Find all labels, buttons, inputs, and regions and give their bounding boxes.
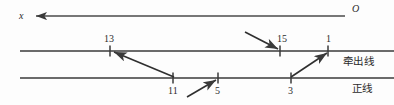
track-name-main: 正线 — [352, 83, 373, 94]
movement-arrow-13-11 — [114, 52, 174, 77]
diagram-canvas — [0, 0, 394, 105]
movement-arrow-into-5 — [187, 80, 216, 97]
track-name-lead: 牵出线 — [343, 56, 374, 67]
axis-label-x: x — [19, 11, 23, 21]
movement-arrow-3-1 — [291, 53, 327, 77]
tick-label-5: 5 — [215, 86, 220, 96]
tick-label-11: 11 — [168, 86, 178, 96]
movement-arrow-into-15 — [245, 32, 278, 49]
tick-label-13: 13 — [104, 34, 114, 44]
tick-label-1: 1 — [326, 34, 331, 44]
axis-label-o: O — [352, 4, 359, 14]
railway-shunting-diagram: x O 13 15 1 11 5 3 牵出线 正线 — [0, 0, 394, 105]
tick-label-15: 15 — [277, 34, 287, 44]
tick-label-3: 3 — [288, 86, 293, 96]
